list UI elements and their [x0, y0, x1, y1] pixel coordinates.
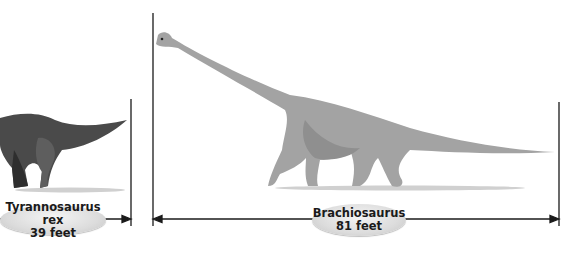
brachio-left-arrowhead [153, 216, 162, 223]
brachio-right-arrowhead [550, 216, 559, 223]
brachio-eye [161, 38, 164, 41]
trex-name: Tyrannosaurus rex [0, 201, 106, 227]
brachio-ground-shadow [275, 186, 525, 191]
brachiosaurus-label: Brachiosaurus 81 feet [312, 204, 406, 236]
brachiosaurus-illustration [156, 32, 555, 190]
trex-length: 39 feet [30, 227, 76, 240]
trex-arrowhead [122, 216, 131, 223]
measurement-markers [0, 13, 559, 226]
tyrannosaurus-illustration [0, 114, 127, 193]
brachio-body [156, 32, 555, 187]
trex-leg [36, 138, 55, 188]
trex-label: Tyrannosaurus rex 39 feet [0, 205, 106, 235]
trex-ground-shadow [15, 188, 125, 193]
brachio-length: 81 feet [336, 220, 382, 233]
